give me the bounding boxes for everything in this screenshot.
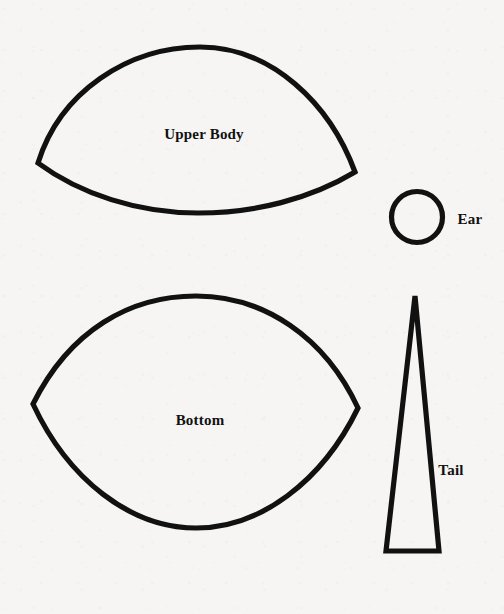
pattern-sheet: Upper Body Ear Bottom Tail	[0, 0, 504, 614]
piece-label-bottom: Bottom	[176, 412, 225, 429]
piece-label-tail: Tail	[438, 462, 463, 479]
piece-label-upper-body: Upper Body	[164, 126, 244, 143]
tail-outline	[386, 296, 439, 551]
pattern-drawing	[0, 0, 504, 614]
ear-outline	[392, 192, 443, 243]
piece-label-ear: Ear	[458, 211, 483, 228]
